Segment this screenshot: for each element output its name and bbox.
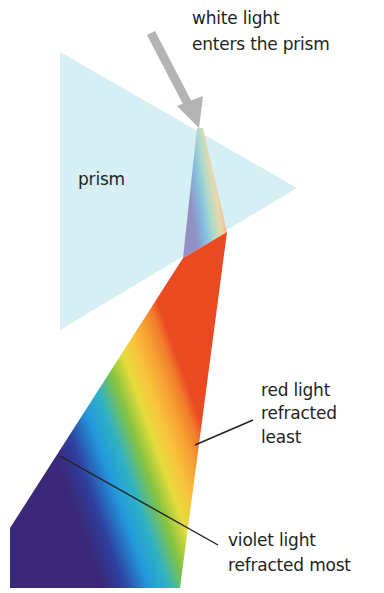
red-light-label-line1: red light [261, 380, 330, 400]
white-light-label-line2: enters the prism [192, 34, 330, 54]
red-light-label-line2: refracted [261, 403, 337, 423]
red-light-leader-line [195, 420, 253, 445]
prism-label: prism [78, 169, 125, 189]
violet-light-label-line2: refracted most [228, 555, 351, 575]
red-light-label-line3: least [261, 427, 301, 447]
prism-dispersion-diagram [0, 0, 384, 593]
violet-light-label-line1: violet light [228, 530, 316, 550]
white-light-label-line1: white light [192, 8, 279, 28]
